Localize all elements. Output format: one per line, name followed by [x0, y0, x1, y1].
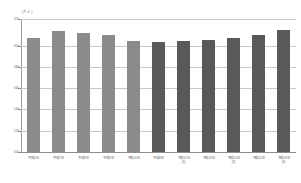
x-axis-tick-label: 平成9年 — [96, 156, 122, 160]
bar — [152, 42, 165, 152]
bar — [227, 38, 240, 152]
y-axis-tick-label: 120 — [2, 129, 19, 133]
y-axis-unit-label: (千人) — [22, 10, 32, 15]
bar — [127, 41, 140, 152]
gridline — [21, 152, 296, 153]
x-axis-tick-label: 平成7年 — [46, 156, 72, 160]
bar — [52, 31, 65, 152]
x-axis-tick-label: 平成13年 — [196, 156, 222, 160]
x-axis-tick-label: 平成8年 — [71, 156, 97, 160]
gridline — [21, 19, 296, 20]
y-axis-tick-label: 140 — [2, 107, 19, 111]
x-axis-tick-label: 平成16年 (3) — [271, 156, 297, 164]
y-axis-tick-label: 160 — [2, 86, 19, 90]
y-axis-tick-label: 200 — [2, 44, 19, 48]
x-axis-tick-label: 平成6年 — [21, 156, 47, 160]
bar — [277, 30, 290, 152]
y-axis-tick-label: 180 — [2, 65, 19, 69]
x-axis-tick-label: 平成14年 (2) — [221, 156, 247, 164]
y-axis-tick-label: 100 — [2, 150, 19, 154]
bar — [77, 33, 90, 152]
bar — [177, 41, 190, 152]
x-axis-tick-label: 平成12年 (1) — [171, 156, 197, 164]
bar-chart: (千人) 225200180160140120100 平成6年平成7年平成8年平… — [0, 0, 301, 183]
bar — [202, 40, 215, 152]
x-axis-tick-label: 平成11年 — [146, 156, 172, 160]
y-axis-tick-label: 225 — [2, 17, 19, 21]
x-axis-tick-label: 平成15年 — [246, 156, 272, 160]
x-axis-tick-label: 平成10年 — [121, 156, 147, 160]
bar — [102, 35, 115, 152]
bar — [27, 38, 40, 152]
bar — [252, 35, 265, 152]
